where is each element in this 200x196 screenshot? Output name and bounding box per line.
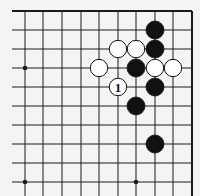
- white-stone: [127, 40, 144, 57]
- white-stone: [109, 40, 126, 57]
- black-stone: [146, 135, 164, 153]
- star-point: [134, 180, 139, 185]
- board-grid: [12, 11, 192, 196]
- white-stone: [146, 59, 163, 76]
- star-point: [23, 180, 28, 185]
- white-stone: [164, 59, 181, 76]
- white-stone: [90, 59, 107, 76]
- black-stone: [146, 21, 164, 39]
- go-board[interactable]: 1: [0, 0, 200, 196]
- star-point: [23, 66, 28, 71]
- black-stone: [127, 97, 145, 115]
- black-stone: [146, 40, 164, 58]
- move-number-label: 1: [115, 80, 122, 95]
- white-stone-marked: 1: [109, 78, 126, 95]
- black-stone: [146, 78, 164, 96]
- black-stone: [127, 59, 145, 77]
